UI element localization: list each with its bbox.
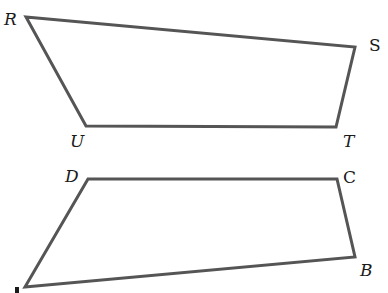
vertex-label-R: R [3, 9, 17, 29]
vertex-label-U: U [70, 131, 85, 151]
vertex-label-C: C [343, 167, 356, 187]
vertex-label-A-partial [15, 287, 19, 293]
vertex-label-T: T [343, 131, 356, 151]
vertex-label-D: D [64, 166, 79, 186]
vertex-label-B: B [359, 260, 373, 280]
outline-RSTU [26, 17, 355, 127]
quadrilateral-RSTU: R S T U [3, 9, 381, 151]
quadrilateral-ABCD: D C B [15, 166, 373, 293]
outline-ABCD [25, 179, 355, 287]
vertex-label-S: S [369, 35, 381, 55]
quadrilaterals-diagram: R S T U D C B [0, 0, 388, 293]
